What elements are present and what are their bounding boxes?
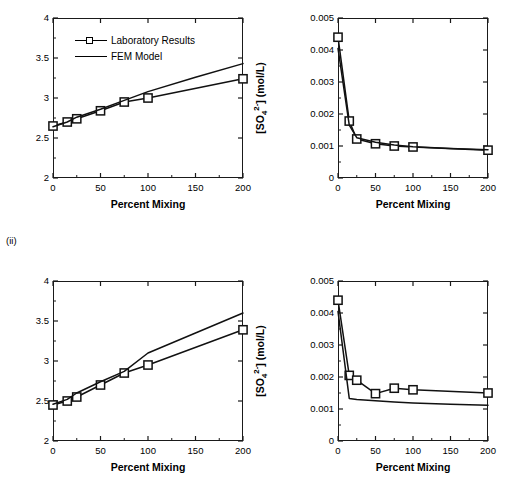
chart-ii-ph-ytick-label: 3.5 [5, 316, 49, 326]
row-label-ii: (ii) [6, 235, 17, 246]
chart-ii-sulfate-xtick-label: 50 [356, 446, 396, 456]
chart-ii-sulfate-ytick-label: 0.002 [290, 372, 334, 382]
chart-i-ph-xtick-label: 50 [81, 183, 121, 193]
chart-ii-sulfate-xtick-label: 100 [393, 446, 433, 456]
chart-ii-sulfate-ytick-label: 0.003 [290, 340, 334, 350]
chart-i-sulfate-yaxis-title: [SO42-] (mol/L) [252, 62, 269, 133]
chart-ii-ph-ytick-label: 2 [5, 436, 49, 446]
chart-i-sulfate-ytick-label: 0.002 [290, 109, 334, 119]
chart-i-ph-ytick-label: 2.5 [5, 133, 49, 143]
legend-entry: FEM Model [75, 50, 195, 63]
chart-ii-sulfate-xtick-label: 200 [468, 446, 508, 456]
chart-i-sulfate-xtick-label: 50 [356, 183, 396, 193]
chart-ii-ph-xaxis-title: Percent Mixing [53, 461, 243, 473]
chart-i-ph-ytick-label: 4 [5, 13, 49, 23]
chart-i-sulfate-xtick-label: 0 [318, 183, 358, 193]
chart-ii-sulfate-xaxis-title: Percent Mixing [338, 461, 488, 473]
legend-entry-label: Laboratory Results [111, 35, 195, 46]
chart-i-sulfate-ytick-label: 0.005 [290, 13, 334, 23]
legend-line-icon [75, 51, 107, 63]
chart-i-ph-xaxis-title: Percent Mixing [53, 198, 243, 210]
chart-ii-ph-ytick-label: 2.5 [5, 396, 49, 406]
chart-i-ph-xtick-label: 0 [33, 183, 73, 193]
chart-legend: Laboratory ResultsFEM Model [75, 34, 195, 66]
chart-ii-ph-ytick-label: 3 [5, 356, 49, 366]
chart-i-sulfate-ytick-label: 0.004 [290, 45, 334, 55]
chart-i-sulfate-ytick-label: 0.003 [290, 77, 334, 87]
chart-ii-sulfate-ytick-label: 0.001 [290, 404, 334, 414]
chart-ii-ph-xtick-label: 50 [81, 446, 121, 456]
chart-ii-sulfate-xtick-label: 150 [431, 446, 471, 456]
chart-i-sulfate-ytick-label: 0 [290, 173, 334, 183]
chart-i-sulfate-xtick-label: 150 [431, 183, 471, 193]
chart-ii-ph-xtick-label: 200 [223, 446, 263, 456]
chart-ii-ph-xtick-label: 100 [128, 446, 168, 456]
legend-entry-label: FEM Model [111, 51, 162, 62]
chart-ii-sulfate-ytick-label: 0.004 [290, 308, 334, 318]
chart-ii-ph-xtick-label: 0 [33, 446, 73, 456]
chart-i-sulfate-xaxis-title: Percent Mixing [338, 198, 488, 210]
chart-i-sulfate-xtick-label: 200 [468, 183, 508, 193]
chart-ii-ph-ytick-label: 4 [5, 276, 49, 286]
chart-i-sulfate-ytick-label: 0.001 [290, 141, 334, 151]
legend-square-marker-icon [75, 35, 107, 47]
chart-ii-sulfate-yaxis-title: [SO42-] (mol/L) [252, 325, 269, 396]
chart-ii-sulfate-ytick-label: 0.005 [290, 276, 334, 286]
chart-ii-ph-plot-frame [53, 281, 243, 441]
chart-i-sulfate-plot-frame [338, 18, 488, 178]
chart-i-ph-xtick-label: 100 [128, 183, 168, 193]
chart-i-ph-xtick-label: 200 [223, 183, 263, 193]
chart-ii-sulfate-plot-frame [338, 281, 488, 441]
chart-i-ph-ytick-label: 3.5 [5, 53, 49, 63]
chart-i-sulfate-xtick-label: 100 [393, 183, 433, 193]
chart-ii-ph-xtick-label: 150 [176, 446, 216, 456]
chart-i-ph-xtick-label: 150 [176, 183, 216, 193]
chart-ii-sulfate-ytick-label: 0 [290, 436, 334, 446]
legend-entry: Laboratory Results [75, 34, 195, 47]
chart-ii-sulfate-xtick-label: 0 [318, 446, 358, 456]
chart-i-ph-ytick-label: 2 [5, 173, 49, 183]
chart-i-ph-ytick-label: 3 [5, 93, 49, 103]
